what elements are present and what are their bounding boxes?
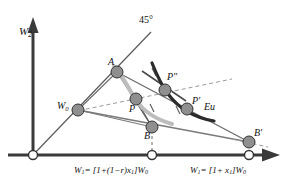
point-label-Pdoubleprime: P″ (167, 72, 177, 82)
x-equation-left: W1= [1+(1−r)x1]W0 (74, 166, 148, 176)
point-label-Pprime: P′ (192, 96, 200, 106)
point-Pdoubleprime-marker (159, 84, 171, 96)
x-equation-right: W1= [1+ x1]W0 (190, 166, 246, 176)
y-axis-label-sub: 2 (28, 31, 32, 39)
point-label-W0: W0 (57, 101, 69, 112)
point-label-Bprime: B′ (254, 128, 262, 138)
x-axis-arrow-icon (262, 149, 280, 162)
point-W0-marker (72, 104, 84, 116)
point-label-A: A (108, 57, 114, 67)
point-label-P: P (129, 104, 135, 114)
point-A-marker (111, 66, 123, 78)
point-label-B: B (144, 131, 150, 141)
line-W0-Bprime (78, 110, 249, 142)
point-label-W0-sub: 0 (65, 105, 68, 112)
origin-marker (29, 151, 38, 160)
x-tick-B-marker (148, 151, 157, 160)
x-eq-right-tail-sub: 0 (243, 169, 246, 175)
x-eq-left-tail: ]W (134, 165, 145, 175)
forty-five-degree-label: 45° (139, 15, 153, 25)
x-eq-right-lhs: W (190, 165, 198, 175)
diagram-svg (0, 0, 288, 187)
figure-canvas: W2 45° W0 A P P″ P′ B B′ Eu W1= [1+(1−r)… (0, 0, 288, 187)
x-eq-right-rhs: = [1+ x (200, 165, 229, 175)
x-eq-right-tail: ]W (232, 165, 243, 175)
eu-curve-label: Eu (204, 102, 215, 112)
x-eq-left-tail-sub: 0 (145, 169, 148, 175)
x-eq-left-rhs: = [1+(1−r)x (84, 165, 130, 175)
point-markers (29, 66, 256, 160)
tick-mark-left-icon (150, 104, 154, 112)
y-axis-label: W2 (19, 26, 32, 39)
market-lines (78, 69, 249, 142)
x-eq-left-lhs: W (74, 165, 82, 175)
line-W0-B (78, 110, 152, 127)
x-tick-Bprime-marker (245, 151, 254, 160)
y-axis-label-text: W (19, 25, 28, 37)
